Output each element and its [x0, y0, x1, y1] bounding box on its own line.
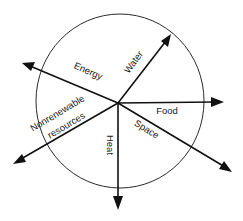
- label-energy: Energy: [72, 60, 104, 82]
- arrowhead-icon: [219, 161, 232, 172]
- arrowhead-icon: [211, 97, 224, 107]
- arrowhead-icon: [113, 196, 123, 210]
- label-water: Water: [121, 49, 145, 76]
- arrowhead-icon: [13, 154, 26, 164]
- label-heat: Heat: [105, 135, 116, 155]
- label-food: Food: [156, 105, 178, 116]
- resource-arrow-diagram: Energy Water Food Space Heat Nonrenewabl…: [0, 0, 243, 221]
- arrow-heat: [113, 103, 123, 210]
